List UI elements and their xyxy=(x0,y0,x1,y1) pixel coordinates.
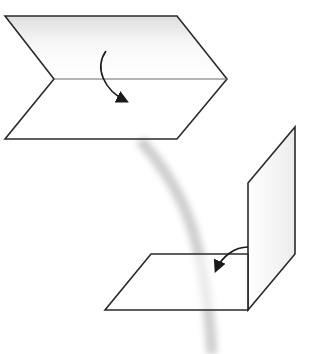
fold-diagram xyxy=(0,0,318,354)
floor-panel xyxy=(105,254,248,310)
folded-sheet-right-angle xyxy=(105,127,295,310)
diagram-canvas xyxy=(0,0,318,354)
flat-sheet-with-fold-line xyxy=(5,16,227,139)
wall-panel xyxy=(248,127,295,310)
sheet-upper-half xyxy=(5,16,227,79)
transition-arc xyxy=(140,140,212,354)
